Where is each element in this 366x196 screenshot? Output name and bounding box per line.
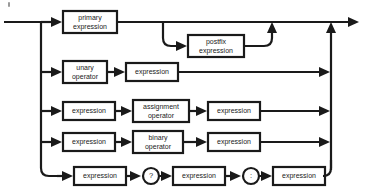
row-assignment-expression: expression assignment operator expressio… — [41, 100, 330, 122]
arrow-to-colon — [230, 171, 241, 181]
label-unary-expression: expression — [135, 68, 169, 76]
label-unary-operator-line2: operator — [72, 73, 99, 81]
label-colon: : — [250, 171, 252, 180]
row-binary-expression: expression binary operator expression — [41, 131, 330, 153]
label-assignment-operator-line1: assignment — [143, 103, 179, 111]
label-conditional-true-expression: expression — [182, 172, 216, 180]
arrow-into-postfix-expression — [176, 41, 187, 51]
left-branch-rail — [41, 22, 57, 176]
scan-artifact-speck — [8, 2, 10, 7]
arrow-to-assignment-rhs — [196, 106, 207, 116]
arrow-to-conditional-false-expression — [261, 171, 272, 181]
label-assignment-lhs-expression: expression — [72, 107, 106, 115]
arrow-into-conditional-cond — [62, 171, 73, 181]
arrow-assignment-row-merge — [319, 106, 330, 116]
arrow-unary-row-merge — [319, 67, 330, 77]
arrow-binary-row-merge — [319, 137, 330, 147]
label-conditional-condition-expression: expression — [83, 172, 117, 180]
row-primary-expression: primary expression — [41, 11, 359, 33]
arrow-unary-to-expression — [114, 67, 125, 77]
arrow-into-assignment-lhs — [51, 106, 62, 116]
expression-syntax-diagram: primary expression postfix expression un… — [0, 0, 366, 196]
row-conditional-expression: expression ? expression : expression — [57, 160, 331, 185]
arrow-to-binary-rhs — [196, 137, 207, 147]
arrow-to-question-mark — [130, 171, 141, 181]
label-assignment-operator-line2: operator — [148, 112, 175, 120]
label-postfix-expression-line1: postfix — [206, 38, 227, 46]
label-binary-lhs-expression: expression — [72, 138, 106, 146]
label-postfix-expression-line2: expression — [199, 47, 233, 55]
arrow-right-rail-merge-top — [326, 22, 336, 33]
arrow-diagram-exit — [348, 17, 359, 27]
arrow-to-assignment-operator — [121, 106, 132, 116]
label-question-mark: ? — [149, 171, 153, 180]
label-binary-operator-line2: operator — [145, 143, 172, 151]
arrow-to-conditional-true-expression — [161, 171, 172, 181]
arrow-to-binary-operator — [121, 137, 132, 147]
arrow-into-unary-operator — [51, 67, 62, 77]
right-merge-rail — [326, 22, 336, 170]
label-binary-operator-line1: binary — [148, 134, 168, 142]
arrow-into-binary-lhs — [51, 137, 62, 147]
label-primary-expression-line2: expression — [73, 23, 107, 31]
label-binary-rhs-expression: expression — [217, 138, 251, 146]
label-primary-expression-line1: primary — [78, 14, 102, 22]
label-assignment-rhs-expression: expression — [217, 107, 251, 115]
row-unary-operator: unary operator expression — [41, 61, 330, 83]
arrow-postfix-merge-up — [267, 22, 277, 33]
arrow-into-primary-expression — [51, 17, 62, 27]
row-postfix-expression: postfix expression — [163, 22, 277, 57]
label-unary-operator-line1: unary — [76, 64, 94, 72]
label-conditional-false-expression: expression — [282, 172, 316, 180]
